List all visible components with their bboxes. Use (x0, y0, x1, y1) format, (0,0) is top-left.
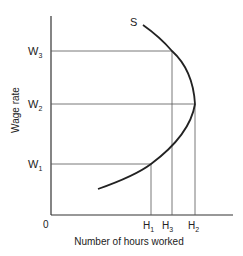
labour-supply-chart: S W3 W2 W1 0 H1 H3 H2 Number of hours wo… (0, 0, 243, 256)
x-tick-h1: H1 (143, 220, 154, 233)
y-tick-w3: W3 (28, 45, 42, 59)
y-tick-w2: W2 (28, 98, 42, 112)
x-tick-h2: H2 (188, 220, 199, 233)
x-axis-title: Number of hours worked (74, 236, 184, 247)
curve-label: S (130, 16, 137, 28)
origin-label: 0 (43, 219, 49, 230)
x-tick-h3: H3 (162, 220, 173, 233)
y-tick-w1: W1 (28, 158, 42, 172)
y-axis-title: Wage rate (10, 87, 21, 133)
